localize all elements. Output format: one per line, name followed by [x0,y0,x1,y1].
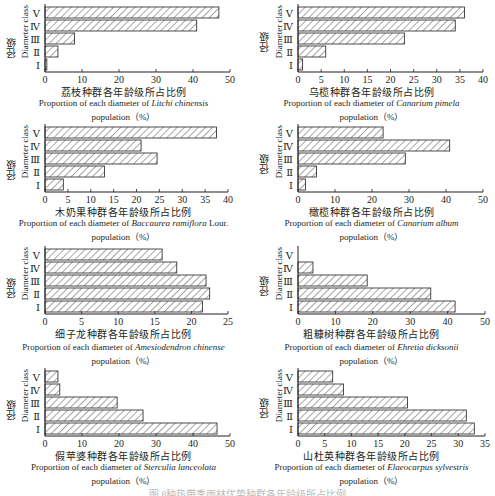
chart-amesiodendron-chinense: 径级 Diameter class ⅤⅣⅢⅡⅠ0510152025 细子龙种群各… [0,242,247,362]
category-label: Ⅱ [33,167,40,178]
category-label: Ⅳ [283,141,294,152]
species-name: Sterculia lanceolata [144,462,216,472]
species-name: Canarium album [397,218,458,228]
bar-Ⅳ [298,384,343,395]
category-label: Ⅳ [283,263,294,274]
chart-title-cn: 假苹婆种群各年龄级所占比例 [0,448,247,463]
category-label: Ⅰ [289,302,293,313]
category-label: Ⅰ [289,424,293,435]
category-label: Ⅲ [30,276,40,287]
bar-plot: ⅤⅣⅢⅡⅠ05101520253035 [248,364,495,454]
bar-Ⅲ [298,275,367,286]
bar-Ⅱ [298,46,326,57]
category-label: Ⅱ [286,167,293,178]
category-label: Ⅰ [36,180,40,191]
bar-Ⅳ [298,20,455,31]
bar-plot: ⅤⅣⅢⅡⅠ0510152025303540 [248,0,495,90]
bar-plot: ⅤⅣⅢⅡⅠ0510152025 [0,242,247,332]
category-label: Ⅳ [30,141,41,152]
category-label: Ⅴ [32,128,41,139]
chart-title-cn: 橄榄种群各年龄级所占比例 [248,204,495,219]
category-label: Ⅱ [33,289,40,300]
chart-ehretia-dicksonii: 径级 Diameter class ⅤⅣⅢⅡⅠ01020304050 粗糠树种群… [248,242,495,362]
chart-canarium-pimela: 径级 Diameter class ⅤⅣⅢⅡⅠ0510152025303540 … [248,0,495,120]
category-label: Ⅲ [283,276,293,287]
category-label: Ⅰ [36,302,40,313]
chart-title-en: Proportion of each diameter of Ehretia d… [248,342,495,352]
bar-Ⅳ [45,20,197,31]
species-name: Ehretia dicksonii [397,342,458,352]
species-name: Canarium pimela [396,98,459,108]
chart-baccaurea-ramiflora: 径级 Diameter class ⅤⅣⅢⅡⅠ0510152025303540 … [0,120,247,240]
bar-Ⅴ [298,371,333,382]
chart-title-en: Proportion of each diameter of Canarium … [248,98,495,108]
bar-Ⅰ [298,423,474,434]
bar-Ⅱ [45,288,210,299]
chart-title-cn: 山杜英种群各年龄级所占比例 [248,448,495,463]
category-label: Ⅴ [32,8,41,19]
species-name: Amesiodendron chinense [135,342,225,352]
bar-Ⅰ [298,301,455,312]
bar-Ⅴ [45,127,217,138]
category-label: Ⅰ [36,60,40,71]
bar-Ⅲ [45,153,157,164]
category-label: Ⅲ [283,154,293,165]
bar-plot: ⅤⅣⅢⅡⅠ01020304050 [248,120,495,210]
species-name: Litchi chinensis [151,98,208,108]
bar-Ⅴ [45,249,162,260]
bar-Ⅳ [45,384,60,395]
chart-title-en: Proportion of each diameter of Sterculia… [0,462,247,472]
chart-title-cn: 细子龙种群各年龄级所占比例 [0,326,247,341]
bar-Ⅱ [298,288,431,299]
bar-Ⅰ [298,179,305,190]
bar-plot: ⅤⅣⅢⅡⅠ01020304050 [0,0,247,90]
bar-Ⅰ [45,301,202,312]
bar-Ⅰ [45,179,63,190]
bar-Ⅴ [45,7,219,18]
figure-caption: 图 8种热带季雨林优势种群各年龄级所占比例 [0,486,495,496]
bar-Ⅱ [45,410,143,421]
category-label: Ⅲ [30,34,40,45]
category-label: Ⅳ [30,263,41,274]
category-label: Ⅰ [289,60,293,71]
category-label: Ⅱ [33,47,40,58]
chart-title-cn: 粗糠树种群各年龄级所占比例 [248,326,495,341]
species-name: Baccaurea ramiflora [131,218,206,228]
bar-Ⅴ [298,127,383,138]
bar-Ⅲ [298,153,405,164]
chart-title-cn: 木奶果种群各年龄级所占比例 [0,204,247,219]
chart-sterculia-lanceolata: 径级 Diameter class ⅤⅣⅢⅡⅠ01020304050 假苹婆种群… [0,364,247,484]
chart-elaeocarpus-sylvestris: 径级 Diameter class ⅤⅣⅢⅡⅠ05101520253035 山杜… [248,364,495,484]
chart-canarium-album: 径级 Diameter class ⅤⅣⅢⅡⅠ01020304050 橄榄种群各… [248,120,495,240]
category-label: Ⅱ [286,411,293,422]
bar-Ⅰ [45,423,217,434]
category-label: Ⅴ [285,250,294,261]
category-label: Ⅴ [285,372,294,383]
bar-Ⅳ [45,262,177,273]
bar-Ⅳ [298,262,313,273]
chart-title-en: Proportion of each diameter of Amesioden… [0,342,247,352]
category-label: Ⅳ [283,21,294,32]
category-label: Ⅳ [283,385,294,396]
chart-litchi-chinensis: 径级 Diameter class ⅤⅣⅢⅡⅠ01020304050 荔枝种群各… [0,0,247,120]
category-label: Ⅴ [285,8,294,19]
chart-title-cn: 乌榄种群各年龄级所占比例 [248,84,495,99]
category-label: Ⅳ [30,21,41,32]
category-label: Ⅴ [32,250,41,261]
chart-title-en: Proportion of each diameter of Elaeocarp… [248,462,495,472]
chart-title-en: Proportion of each diameter of Baccaurea… [0,218,247,228]
category-label: Ⅲ [30,398,40,409]
bar-Ⅱ [45,166,104,177]
bar-Ⅲ [45,275,206,286]
bar-Ⅳ [45,140,141,151]
category-label: Ⅴ [285,128,294,139]
bar-plot: ⅤⅣⅢⅡⅠ01020304050 [248,242,495,332]
category-label: Ⅰ [289,180,293,191]
chart-title-cn: 荔枝种群各年龄级所占比例 [0,84,247,99]
category-label: Ⅳ [30,385,41,396]
bar-Ⅱ [298,410,466,421]
bar-Ⅴ [45,371,58,382]
bar-Ⅱ [45,46,58,57]
figure-grid: 径级 Diameter class ⅤⅣⅢⅡⅠ01020304050 荔枝种群各… [0,0,495,496]
chart-title-en: Proportion of each diameter of Canarium … [248,218,495,228]
